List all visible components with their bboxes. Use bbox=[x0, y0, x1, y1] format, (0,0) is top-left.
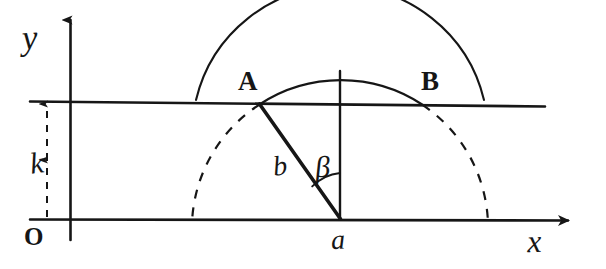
circle-dashed-left-arc bbox=[192, 105, 259, 220]
diagram-canvas bbox=[0, 0, 606, 269]
radius-label: b bbox=[272, 151, 289, 180]
x-axis-label: x bbox=[526, 225, 541, 257]
circle-dashed-right-arc bbox=[423, 105, 488, 219]
point-a-upper-label: A bbox=[238, 68, 258, 95]
origin-label: O bbox=[24, 224, 43, 249]
geometry-figure: y k O x A B a b β bbox=[0, 0, 606, 269]
y-axis-label: y bbox=[21, 20, 39, 56]
angle-beta-label: β bbox=[314, 152, 331, 183]
point-b-upper-label: B bbox=[421, 68, 439, 95]
x-axis-line bbox=[30, 220, 568, 221]
centre-point-label: a bbox=[330, 226, 345, 255]
chord-line bbox=[30, 102, 545, 107]
